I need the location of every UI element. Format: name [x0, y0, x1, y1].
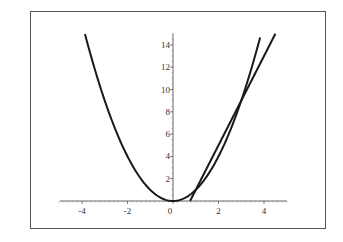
x-tick-label: -4 — [78, 206, 86, 216]
x-tick-label: -2 — [124, 206, 132, 216]
secant-line — [190, 34, 275, 201]
y-tick-label: 8 — [166, 107, 171, 117]
y-tick-label: 12 — [161, 62, 170, 72]
y-tick-label: 14 — [161, 40, 171, 50]
plot-area: -4-20242468101214 — [0, 0, 343, 242]
y-tick-label: 10 — [161, 85, 171, 95]
y-tick-label: 6 — [166, 129, 171, 139]
x-tick-label: 0 — [168, 206, 173, 216]
x-tick-label: 4 — [262, 206, 267, 216]
x-tick-label: 2 — [216, 206, 221, 216]
y-tick-label: 4 — [166, 151, 171, 161]
y-tick-label: 2 — [166, 174, 171, 184]
